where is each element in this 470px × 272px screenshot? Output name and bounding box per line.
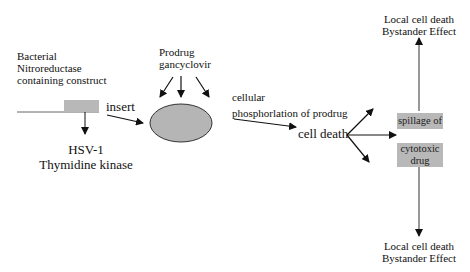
outcome-label-line: Bystander Effect xyxy=(369,252,469,264)
outcome-label-line: Bystander Effect xyxy=(369,25,469,37)
prodrug-arrow-left xyxy=(160,77,173,97)
diagram-arrows xyxy=(0,0,470,272)
prodrug-arrow-right xyxy=(196,77,209,97)
outcome-label-line: Local cell death xyxy=(369,240,469,252)
phosphorylation-label-line: cellular xyxy=(232,89,347,105)
phosphorylation-label-line: phosphorlation of prodrug xyxy=(232,105,347,121)
tk-label-line: Thymidine kinase xyxy=(38,157,134,172)
branch-arrow-up xyxy=(347,109,373,135)
cell-death-label: cell death xyxy=(298,126,348,141)
cell-ellipse xyxy=(150,104,212,142)
prodrug-label-line: gancyclovir xyxy=(159,58,211,70)
bottom-outcome-label: Local cell death Bystander Effect xyxy=(369,240,469,264)
phosphorylation-label: cellular phosphorlation of prodrug xyxy=(232,89,347,121)
spillage-box: spillage of xyxy=(397,113,443,129)
construct-label-line: Nitroreductase xyxy=(17,62,107,74)
construct-gene-box xyxy=(64,100,99,112)
outcome-label-line: Local cell death xyxy=(369,13,469,25)
prodrug-label: Prodrug gancyclovir xyxy=(159,46,211,70)
cytotoxic-drug-box: cytotoxic drug xyxy=(397,143,443,167)
prodrug-label-line: Prodrug xyxy=(159,46,211,58)
construct-label: Bacterial Nitroreductase containing cons… xyxy=(17,50,107,86)
top-outcome-label: Local cell death Bystander Effect xyxy=(369,13,469,37)
hsv-tk-label: HSV-1 Thymidine kinase xyxy=(38,142,134,172)
construct-label-line: containing construct xyxy=(17,74,107,86)
branch-arrow-down xyxy=(347,135,369,162)
cytotoxic-label-line: cytotoxic xyxy=(397,143,443,155)
hsv-label-line: HSV-1 xyxy=(38,142,134,157)
insert-arrow xyxy=(107,115,143,123)
construct-label-line: Bacterial xyxy=(17,50,107,62)
cytotoxic-label-line: drug xyxy=(397,155,443,167)
insert-label: insert xyxy=(106,99,135,114)
